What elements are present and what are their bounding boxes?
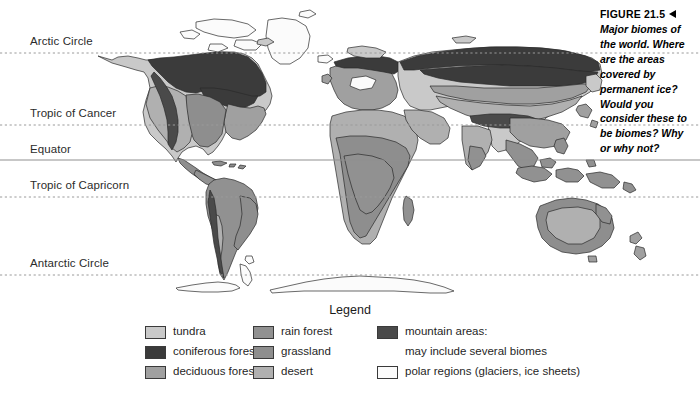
legend-label-mountain-areas: mountain areas:	[405, 326, 487, 338]
legend-item-mountain-areas-note: may include several biomes	[377, 343, 580, 361]
legend-swatch-polar-regions	[377, 366, 398, 379]
legend-swatch-rain-forest	[253, 326, 274, 339]
map-svg: .ln{fill:none;stroke:#2a2a2a;stroke-widt…	[0, 0, 700, 300]
legend-label-desert: desert	[281, 366, 313, 378]
figure-caption-block: FIGURE 21.5 Major biomes of the world. W…	[600, 8, 696, 156]
world-biome-map: .ln{fill:none;stroke:#2a2a2a;stroke-widt…	[0, 0, 700, 300]
latitude-label-tropic-of-cancer: Tropic of Cancer	[30, 108, 116, 120]
left-triangle-icon	[669, 10, 676, 18]
legend-item-desert: desert	[253, 363, 332, 381]
legend-column-3: mountain areas: may include several biom…	[377, 323, 580, 383]
legend-swatch-grassland	[253, 346, 274, 359]
latitude-label-tropic-of-capricorn: Tropic of Capricorn	[30, 180, 129, 192]
legend-label-coniferous-forest: coniferous forest	[173, 346, 258, 358]
figure-number-line: FIGURE 21.5	[600, 8, 696, 20]
legend-swatch-desert	[253, 366, 274, 379]
legend-item-coniferous-forest: coniferous forest	[145, 343, 258, 361]
legend-label-tundra: tundra	[173, 326, 206, 338]
legend-swatch-spacer	[377, 346, 398, 359]
legend-swatch-coniferous-forest	[145, 346, 166, 359]
legend-item-grassland: grassland	[253, 343, 332, 361]
legend-label-mountain-areas-note: may include several biomes	[405, 346, 547, 358]
legend-item-polar-regions: polar regions (glaciers, ice sheets)	[377, 363, 580, 381]
legend-column-2: rain forest grassland desert	[253, 323, 332, 383]
figure-caption-text: Major biomes of the world. Where are the…	[600, 22, 696, 156]
figure-number-label: FIGURE 21.5	[600, 8, 665, 20]
legend-item-tundra: tundra	[145, 323, 258, 341]
legend-column-1: tundra coniferous forest deciduous fores…	[145, 323, 258, 383]
latitude-label-equator: Equator	[30, 144, 71, 156]
legend-label-polar-regions: polar regions (glaciers, ice sheets)	[405, 366, 580, 378]
map-legend: Legend tundra coniferous forest deciduou…	[0, 303, 700, 400]
latitude-label-arctic-circle: Arctic Circle	[30, 36, 93, 48]
legend-item-mountain-areas: mountain areas:	[377, 323, 580, 341]
legend-swatch-mountain-areas	[377, 326, 398, 339]
legend-item-deciduous-forest: deciduous forest	[145, 363, 258, 381]
legend-label-deciduous-forest: deciduous forest	[173, 366, 257, 378]
latitude-label-antarctic-circle: Antarctic Circle	[30, 258, 109, 270]
legend-label-grassland: grassland	[281, 346, 331, 358]
figure-21-5: .ln{fill:none;stroke:#2a2a2a;stroke-widt…	[0, 0, 700, 400]
legend-item-rain-forest: rain forest	[253, 323, 332, 341]
legend-label-rain-forest: rain forest	[281, 326, 332, 338]
legend-swatch-deciduous-forest	[145, 366, 166, 379]
legend-title: Legend	[0, 303, 700, 317]
legend-swatch-tundra	[145, 326, 166, 339]
